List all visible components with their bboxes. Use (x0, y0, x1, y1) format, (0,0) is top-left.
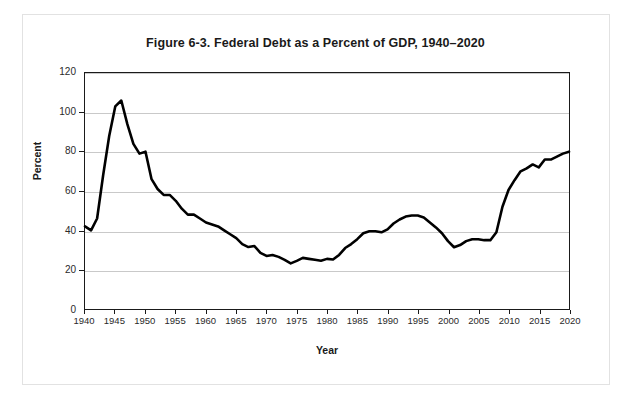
plot-area (84, 72, 570, 310)
x-tick-mark (84, 310, 85, 314)
y-tick-mark (79, 231, 84, 232)
x-tick-mark (236, 310, 237, 314)
figure-title: Figure 6-3. Federal Debt as a Percent of… (0, 36, 631, 50)
y-tick-mark (79, 191, 84, 192)
y-tick-label: 20 (42, 264, 76, 275)
x-tick-mark (388, 310, 389, 314)
y-tick-label: 40 (42, 225, 76, 236)
y-tick-label: 0 (42, 304, 76, 315)
x-tick-mark (449, 310, 450, 314)
x-tick-mark (540, 310, 541, 314)
y-tick-label: 100 (42, 106, 76, 117)
x-tick-mark (327, 310, 328, 314)
x-tick-mark (206, 310, 207, 314)
x-tick-mark (297, 310, 298, 314)
debt-gdp-line (85, 101, 569, 264)
x-tick-mark (145, 310, 146, 314)
x-tick-mark (357, 310, 358, 314)
x-tick-mark (479, 310, 480, 314)
y-tick-label: 60 (42, 185, 76, 196)
x-tick-mark (570, 310, 571, 314)
y-tick-mark (79, 151, 84, 152)
x-tick-label: 2020 (550, 315, 590, 326)
y-tick-mark (79, 270, 84, 271)
x-tick-mark (266, 310, 267, 314)
x-tick-mark (114, 310, 115, 314)
x-tick-mark (509, 310, 510, 314)
x-tick-mark (175, 310, 176, 314)
line-series-chart (85, 73, 569, 309)
y-tick-mark (79, 112, 84, 113)
y-tick-label: 120 (42, 66, 76, 77)
y-tick-label: 80 (42, 145, 76, 156)
x-tick-mark (418, 310, 419, 314)
x-axis-title: Year (84, 344, 570, 356)
